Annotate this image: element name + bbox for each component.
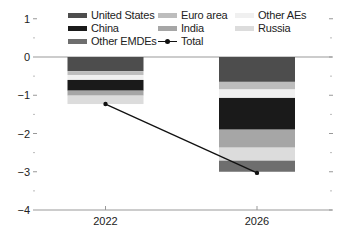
x-tick-label: 2026: [245, 215, 269, 227]
swatch-icon: [235, 13, 254, 18]
legend-label: Other EMDEs: [91, 35, 157, 47]
legend-item-china: China: [68, 22, 119, 34]
legend-item-india: India: [158, 22, 204, 34]
y-tick-label: 0: [24, 51, 30, 63]
bar-segment: [68, 91, 144, 96]
legend-label: India: [181, 22, 204, 34]
legend-item-other-aes: Other AEs: [235, 9, 306, 21]
swatch-icon: [158, 13, 177, 18]
bar-segment: [68, 75, 144, 80]
bar-segment: [219, 90, 295, 98]
swatch-icon: [235, 26, 254, 31]
x-tick-label: 2022: [93, 215, 117, 227]
y-tick-label: −3: [17, 166, 30, 178]
legend-label: China: [91, 22, 119, 34]
bar-segment: [219, 148, 295, 161]
y-tick-label: 1: [24, 13, 30, 25]
bar-segment: [68, 57, 144, 71]
total-marker: [255, 171, 259, 175]
legend-item-russia: Russia: [235, 22, 290, 34]
legend-label: Euro area: [181, 9, 228, 21]
bar-segment: [219, 98, 295, 130]
legend-item-euro-area: Euro area: [158, 9, 228, 21]
swatch-icon: [68, 39, 87, 44]
legend-item-other-emdes: Other EMDEs: [68, 35, 157, 47]
line-marker-icon: [158, 39, 177, 44]
swatch-icon: [68, 26, 87, 31]
legend-label: Other AEs: [258, 9, 306, 21]
legend-label: United States: [91, 9, 154, 21]
legend-label: Total: [181, 35, 203, 47]
bar-segment: [219, 57, 295, 82]
legend-item-total: Total: [158, 35, 203, 47]
bar-segment: [219, 82, 295, 90]
bar-segment: [219, 130, 295, 148]
y-tick-label: −1: [17, 89, 30, 101]
bars: [68, 57, 296, 172]
legend: United States China Other EMDEs Euro are…: [68, 9, 338, 51]
swatch-icon: [158, 26, 177, 31]
bar-segment: [68, 80, 144, 91]
swatch-icon: [68, 13, 87, 18]
bar-segment: [68, 71, 144, 75]
y-tick-label: −2: [17, 128, 30, 140]
legend-item-united-states: United States: [68, 9, 154, 21]
legend-label: Russia: [258, 22, 290, 34]
total-marker: [103, 102, 107, 106]
y-tick-label: −4: [17, 204, 30, 216]
bar-segment: [219, 161, 295, 172]
